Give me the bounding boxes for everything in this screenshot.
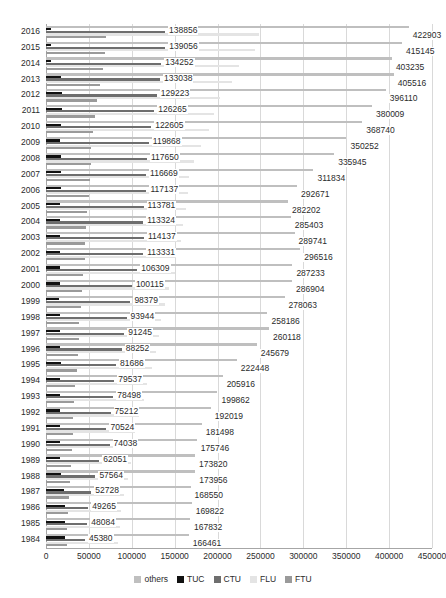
bar-others xyxy=(46,327,269,329)
ctu-value-label: 78498 xyxy=(116,391,142,400)
others-value-label: 199862 xyxy=(220,396,250,405)
bar-rows: 1388564229031390564151451342524032351330… xyxy=(46,24,432,548)
x-tick-label: 100000 xyxy=(118,551,146,561)
year-label: 2015 xyxy=(21,43,40,52)
legend-item-ftu[interactable]: FTU xyxy=(285,574,312,584)
others-value-label: 282202 xyxy=(291,206,321,215)
bar-ftu xyxy=(46,433,73,435)
year-label: 2004 xyxy=(21,217,40,226)
bar-ftu xyxy=(46,211,87,213)
others-value-label: 289741 xyxy=(298,237,328,246)
others-value-label: 285403 xyxy=(294,221,324,230)
bar-chart: 1388564229031390564151451342524032351330… xyxy=(0,0,446,598)
bar-others xyxy=(46,312,267,314)
bar-others xyxy=(46,26,409,28)
gridline xyxy=(432,24,433,548)
x-axis-line xyxy=(46,548,432,549)
others-value-label: 167832 xyxy=(193,523,223,532)
bar-ftu xyxy=(46,306,81,308)
bar-ftu xyxy=(46,274,83,276)
ctu-value-label: 117650 xyxy=(150,153,180,162)
ctu-value-label: 48084 xyxy=(90,518,116,527)
others-value-label: 335945 xyxy=(337,158,367,167)
ctu-value-label: 98379 xyxy=(133,296,159,305)
ctu-value-label: 113331 xyxy=(146,248,176,257)
bar-ftu xyxy=(46,258,85,260)
bar-others xyxy=(46,121,362,123)
bar-ftu xyxy=(46,338,79,340)
legend-item-others[interactable]: others xyxy=(134,574,168,584)
others-value-label: 403235 xyxy=(395,63,425,72)
year-label: 2016 xyxy=(21,27,40,36)
others-value-label: 292671 xyxy=(300,190,330,199)
bar-ftu xyxy=(46,369,77,371)
ctu-value-label: 62051 xyxy=(102,455,128,464)
bar-ftu xyxy=(46,496,69,498)
ctu-value-label: 52728 xyxy=(94,486,120,495)
bar-ftu xyxy=(46,385,75,387)
x-axis: 0500001000001500002000002500003000003500… xyxy=(46,548,432,564)
others-value-label: 350252 xyxy=(349,142,379,151)
bar-ftu xyxy=(46,163,91,165)
year-label: 1999 xyxy=(21,297,40,306)
bar-ftu xyxy=(46,84,100,86)
bar-ftu xyxy=(46,481,70,483)
others-value-label: 258186 xyxy=(270,317,300,326)
others-value-label: 311834 xyxy=(316,174,346,183)
ctu-value-label: 138856 xyxy=(168,26,198,35)
year-label: 2005 xyxy=(21,202,40,211)
plot-area: 1388564229031390564151451342524032351330… xyxy=(46,24,432,548)
year-label: 2011 xyxy=(22,106,40,115)
others-value-label: 168550 xyxy=(194,491,224,500)
x-tick-label: 0 xyxy=(44,551,49,561)
legend-item-tuc[interactable]: TUC xyxy=(177,574,204,584)
x-tick-label: 450000 xyxy=(418,551,446,561)
bar-ftu xyxy=(46,322,79,324)
year-label: 1993 xyxy=(21,392,40,401)
ctu-value-label: 113781 xyxy=(147,201,177,210)
year-label: 1986 xyxy=(21,503,40,512)
others-value-label: 287233 xyxy=(295,269,325,278)
others-value-label: 222448 xyxy=(240,364,270,373)
bar-ftu xyxy=(46,52,105,54)
legend-item-ctu[interactable]: CTU xyxy=(214,574,241,584)
y-axis-category-labels: 2016201520142013201220112010200920082007… xyxy=(0,24,44,548)
ctu-value-label: 133038 xyxy=(163,74,193,83)
ctu-value-label: 129223 xyxy=(160,89,190,98)
bar-ftu xyxy=(46,179,90,181)
bar-others xyxy=(46,280,292,282)
year-label: 2000 xyxy=(21,281,40,290)
legend-label: CTU xyxy=(224,574,241,584)
others-value-label: 396110 xyxy=(389,94,419,103)
ctu-value-label: 81686 xyxy=(119,359,145,368)
ctu-value-label: 114137 xyxy=(147,232,177,241)
year-label: 2010 xyxy=(21,122,40,131)
others-value-label: 286904 xyxy=(295,285,325,294)
others-value-label: 169822 xyxy=(195,507,225,516)
ctu-value-label: 113324 xyxy=(146,216,176,225)
ctu-value-label: 93944 xyxy=(130,312,156,321)
others-value-label: 173820 xyxy=(198,460,228,469)
x-tick-label: 400000 xyxy=(375,551,403,561)
year-label: 1992 xyxy=(21,408,40,417)
legend-swatch-icon xyxy=(134,576,141,583)
bar-others xyxy=(46,73,394,75)
bar-others xyxy=(46,518,190,520)
others-value-label: 173956 xyxy=(198,476,228,485)
ctu-value-label: 57564 xyxy=(98,471,124,480)
ctu-value-label: 88252 xyxy=(125,344,151,353)
bar-ftu xyxy=(46,226,86,228)
legend-label: TUC xyxy=(187,574,204,584)
legend-item-flu[interactable]: FLU xyxy=(250,574,276,584)
legend-swatch-icon xyxy=(250,576,257,583)
year-label: 1985 xyxy=(21,519,40,528)
year-label: 2001 xyxy=(21,265,40,274)
others-value-label: 181498 xyxy=(205,428,235,437)
bar-ftu xyxy=(46,449,72,451)
others-value-label: 205916 xyxy=(226,380,256,389)
ctu-value-label: 75212 xyxy=(114,407,140,416)
bar-ftu xyxy=(46,354,78,356)
legend-label: others xyxy=(144,574,168,584)
year-label: 1987 xyxy=(21,487,40,496)
bar-ftu xyxy=(46,242,85,244)
